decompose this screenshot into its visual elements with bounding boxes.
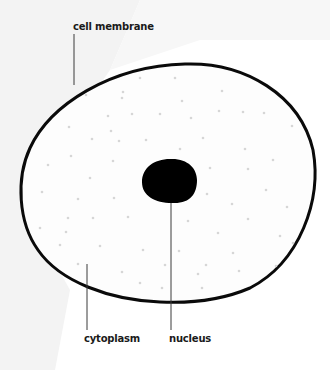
- background-shade-top: [110, 0, 330, 70]
- cell-diagram: cell membrane cytoplasm nucleus: [0, 0, 330, 370]
- nucleus-label: nucleus: [169, 333, 211, 344]
- cell-diagram-graphic: [0, 0, 330, 370]
- nucleus: [142, 159, 197, 203]
- cell-membrane-label: cell membrane: [73, 21, 154, 32]
- cytoplasm-label: cytoplasm: [84, 333, 140, 344]
